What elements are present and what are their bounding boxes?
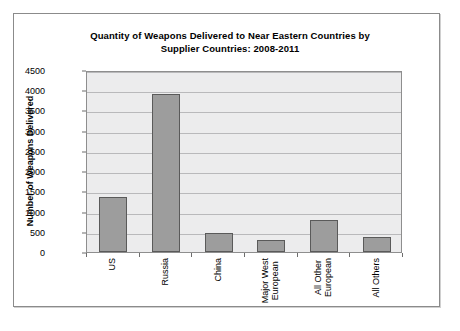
chart-title: Quantity of Weapons Delivered to Near Ea… (44, 29, 416, 55)
chart-title-line-1: Quantity of Weapons Delivered to Near Ea… (44, 29, 416, 42)
x-axis-label-text: US (107, 258, 117, 271)
bar-slot (298, 72, 351, 252)
y-axis-title: Number of Weapons Delivered (22, 76, 38, 246)
bar-china[interactable] (205, 233, 233, 252)
x-axis-tick-mark (297, 253, 298, 257)
bar-major-west-european[interactable] (257, 240, 285, 252)
y-axis-tick-label: 2000 (1, 167, 45, 177)
y-axis-tick-label: 0 (1, 248, 45, 258)
x-axis-tick-mark (244, 253, 245, 257)
y-axis-tick-label: 3000 (1, 127, 45, 137)
y-axis-tick-label: 3500 (1, 106, 45, 116)
x-axis-tick-mark (349, 253, 350, 257)
x-axis-label: All Others (369, 258, 383, 318)
x-axis-label: Major WestEuropean (263, 258, 277, 318)
y-axis-tick-label: 2500 (1, 147, 45, 157)
bar-slot (245, 72, 298, 252)
plot-area (86, 71, 402, 253)
x-axis-label-text: Major WestEuropean (260, 258, 280, 303)
bar-series (87, 72, 401, 252)
x-axis-tick-mark (86, 253, 87, 257)
x-axis-label: China (211, 258, 225, 318)
x-axis-label-text: Russia (160, 258, 170, 286)
x-axis-label: US (105, 258, 119, 318)
y-axis-tick-label: 1500 (1, 187, 45, 197)
x-axis-label: Russia (158, 258, 172, 318)
y-axis-tick-label: 1000 (1, 208, 45, 218)
x-axis-tick-mark (139, 253, 140, 257)
x-axis-label-text: All OtherEuropean (313, 258, 333, 297)
bar-slot (87, 72, 140, 252)
bar-all-other-european[interactable] (310, 220, 338, 252)
y-axis-tick-label: 4000 (1, 86, 45, 96)
bar-all-others[interactable] (363, 237, 391, 252)
chart-title-line-2: Supplier Countries: 2008-2011 (44, 42, 416, 55)
bar-russia[interactable] (152, 94, 180, 252)
x-axis-tick-mark (191, 253, 192, 257)
y-axis-tick-label: 4500 (1, 66, 45, 76)
x-axis-label-text: China (213, 258, 223, 282)
bar-slot (140, 72, 193, 252)
bar-slot (192, 72, 245, 252)
chart-page: Quantity of Weapons Delivered to Near Ea… (0, 0, 460, 331)
y-axis-tick-label: 500 (1, 228, 45, 238)
x-axis-ticks (86, 253, 402, 257)
x-axis-label: All OtherEuropean (316, 258, 330, 318)
chart-frame: Quantity of Weapons Delivered to Near Ea… (13, 13, 440, 307)
x-axis-labels: USRussiaChinaMajor WestEuropeanAll Other… (86, 258, 402, 320)
bar-us[interactable] (99, 197, 127, 252)
bar-slot (350, 72, 403, 252)
x-axis-tick-mark (402, 253, 403, 257)
x-axis-label-text: All Others (371, 258, 381, 298)
